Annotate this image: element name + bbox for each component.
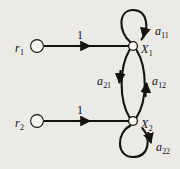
edge-label-a11: a11 (155, 22, 168, 38)
edge-x1-self-loop (121, 10, 146, 42)
edge-label-a22-subscript: 22 (162, 147, 170, 156)
edge-x2-x1-curve-path (137, 50, 145, 118)
node-label-x2: X2 (141, 115, 152, 131)
edge-label-a11-subscript: 11 (161, 31, 168, 40)
node-label-r2: r2 (15, 114, 23, 130)
figure-canvas: r1 r2 X1 X2 a11 a22 a21 a12 1 1 (0, 0, 180, 169)
node-label-r1-subscript: 1 (20, 48, 24, 57)
node-label-r1: r1 (15, 39, 23, 55)
edge-x1-x2-curve (119, 50, 129, 118)
edge-label-a21-subscript: 21 (103, 81, 111, 90)
node-label-r2-subscript: 2 (20, 123, 24, 132)
edge-label-a12: a12 (152, 72, 166, 88)
node-r2[interactable] (31, 115, 44, 128)
node-label-r1-base: r (15, 41, 20, 55)
edge-label-weight-r1x1: 1 (77, 26, 83, 42)
edge-x1-x2-curve-path (122, 50, 130, 118)
node-label-x2-base: X (141, 117, 148, 131)
edge-label-weight-r2x2: 1 (77, 101, 83, 117)
edge-x1-x2-curve-arrowhead (119, 70, 120, 83)
edge-label-a12-subscript: 12 (158, 81, 166, 90)
node-label-x1-base: X (141, 42, 148, 56)
edge-x1-self-loop-path (121, 10, 146, 42)
edge-x1-self-loop-arrowhead (143, 28, 145, 38)
edge-label-a22: a22 (156, 138, 170, 154)
node-label-x1-subscript: 1 (149, 49, 153, 58)
node-label-x2-subscript: 2 (149, 124, 153, 133)
node-r1[interactable] (31, 40, 44, 53)
node-label-x1: X1 (141, 40, 152, 56)
edge-x2-x1-curve-arrowhead (145, 83, 146, 97)
node-x1[interactable] (129, 42, 138, 51)
node-label-r2-base: r (15, 116, 20, 130)
edge-label-weight-r1x1-base: 1 (77, 28, 83, 42)
edge-label-weight-r2x2-base: 1 (77, 103, 83, 117)
edge-label-a21: a21 (97, 72, 111, 88)
edge-x2-x1-curve (137, 50, 147, 118)
node-x2[interactable] (129, 117, 138, 126)
